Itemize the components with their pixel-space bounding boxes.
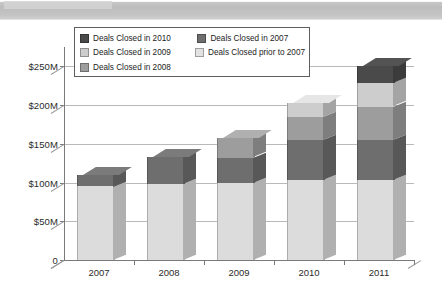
legend-item[interactable]: Deals Closed prior to 2007	[195, 48, 305, 57]
segment-side-face	[323, 175, 336, 260]
x-axis-category-label: 2011	[349, 267, 409, 278]
bar-segment[interactable]	[357, 83, 393, 106]
x-axis-tick	[344, 260, 345, 265]
segment-side-face	[323, 135, 336, 181]
x-axis-tick	[414, 260, 415, 265]
bar-segment[interactable]	[147, 157, 183, 184]
segment-front-face	[147, 157, 185, 184]
segment-front-face	[357, 66, 395, 83]
x-axis-category-label: 2007	[69, 267, 129, 278]
legend-swatch-icon	[80, 48, 89, 57]
segment-front-face	[357, 140, 395, 180]
legend-item[interactable]: Deals Closed in 2008	[80, 63, 200, 72]
bar-segment[interactable]	[357, 107, 393, 140]
segment-front-face	[287, 117, 325, 140]
segment-front-face	[77, 186, 115, 260]
bar-segment[interactable]	[357, 66, 393, 83]
legend-item[interactable]: Deals Closed in 2010	[80, 34, 197, 43]
segment-front-face	[357, 107, 395, 140]
bar-segment[interactable]	[77, 175, 113, 187]
bar-segment[interactable]	[357, 140, 393, 180]
bar-segment[interactable]	[217, 158, 253, 183]
y-axis-label: $50M	[2, 216, 58, 227]
bar-segment[interactable]	[217, 138, 253, 157]
y-axis-label: $200M	[2, 100, 58, 111]
x-axis-tick	[274, 260, 275, 265]
chart-legend: Deals Closed in 2010Deals Closed in 2007…	[74, 27, 310, 77]
segment-front-face	[217, 183, 255, 260]
legend-row: Deals Closed in 2009Deals Closed prior t…	[80, 46, 305, 61]
y-axis-label: $150M	[2, 138, 58, 149]
segment-front-face	[77, 175, 115, 187]
segment-side-face	[393, 175, 406, 260]
legend-label: Deals Closed in 2007	[210, 34, 288, 43]
segment-front-face	[217, 158, 255, 183]
x-axis-category-label: 2008	[139, 267, 199, 278]
legend-row: Deals Closed in 2010Deals Closed in 2007	[80, 31, 305, 46]
segment-side-face	[253, 177, 266, 260]
x-axis-category-label: 2010	[279, 267, 339, 278]
segment-side-face	[393, 101, 406, 140]
legend-row: Deals Closed in 2008	[80, 60, 305, 75]
segment-front-face	[287, 103, 325, 117]
legend-label: Deals Closed in 2009	[93, 48, 171, 57]
bar-segment[interactable]	[217, 183, 253, 260]
segment-side-face	[183, 179, 196, 260]
x-axis-line	[64, 260, 414, 261]
y-axis-label: $100M	[2, 177, 58, 188]
legend-swatch-icon	[80, 63, 89, 72]
legend-swatch-icon	[80, 34, 89, 43]
x-axis-tick	[204, 260, 205, 265]
stacked-column-chart: 0$50M$100M$150M$200M$250M200720082009201…	[0, 21, 442, 296]
segment-front-face	[357, 83, 395, 106]
bar-segment[interactable]	[287, 117, 323, 140]
segment-side-face	[393, 135, 406, 181]
legend-label: Deals Closed in 2010	[93, 34, 171, 43]
scan-artifact	[4, 1, 112, 9]
bar-segment[interactable]	[357, 180, 393, 260]
legend-label: Deals Closed prior to 2007	[208, 48, 305, 57]
bar-segment[interactable]	[147, 184, 183, 260]
segment-front-face	[357, 180, 395, 260]
bar-segment[interactable]	[287, 140, 323, 180]
segment-front-face	[287, 180, 325, 260]
x-axis-category-label: 2009	[209, 267, 269, 278]
y-axis-label: $250M	[2, 61, 58, 72]
bar-segment[interactable]	[77, 186, 113, 260]
legend-swatch-icon	[197, 34, 206, 43]
bar-segment[interactable]	[287, 180, 323, 260]
legend-item[interactable]: Deals Closed in 2009	[80, 48, 195, 57]
segment-front-face	[147, 184, 185, 260]
bar-segment[interactable]	[287, 103, 323, 117]
legend-swatch-icon	[195, 48, 204, 57]
segment-side-face	[113, 181, 126, 260]
segment-front-face	[287, 140, 325, 180]
bar-column[interactable]	[357, 21, 393, 260]
legend-label: Deals Closed in 2008	[93, 63, 171, 72]
segment-front-face	[217, 138, 255, 157]
y-axis-line	[64, 47, 65, 260]
x-axis-tick	[134, 260, 135, 265]
legend-item[interactable]: Deals Closed in 2007	[197, 34, 305, 43]
scanned-top-band	[0, 0, 442, 21]
y-axis-label: 0	[2, 255, 58, 266]
